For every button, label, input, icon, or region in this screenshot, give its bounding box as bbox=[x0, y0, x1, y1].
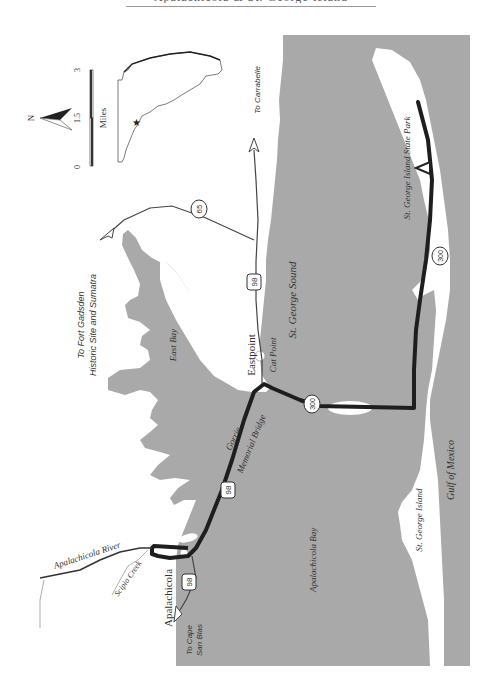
label-fort-gadsden-2: Historic Site and Sumatra bbox=[88, 274, 98, 376]
shield-us98-a-label: 98 bbox=[250, 277, 259, 286]
scale-tick-0: 0 bbox=[73, 165, 82, 169]
shield-us98-b-label: 98 bbox=[224, 485, 233, 494]
locator-star-icon: ★ bbox=[132, 117, 141, 128]
label-gulf-of-mexico: Gulf of Mexico bbox=[445, 440, 456, 500]
label-st-george-sound: St. George Sound bbox=[286, 261, 298, 338]
shield-us98-a: 98 bbox=[247, 274, 261, 290]
shield-us98-c-label: 98 bbox=[185, 577, 194, 586]
shield-sr300-a-label: 300 bbox=[309, 398, 316, 410]
fort-gadsden-arrow-icon bbox=[100, 228, 114, 240]
shield-sr300-b: 300 bbox=[432, 247, 448, 265]
label-cat-point: Cat Point bbox=[268, 337, 278, 372]
label-carrabelle: To Carrabelle bbox=[253, 66, 262, 114]
shield-sr300-b-label: 300 bbox=[437, 250, 444, 262]
scale-bar bbox=[90, 70, 93, 166]
map: 65 98 98 98 300 300 To Fort Gadsden Hist… bbox=[0, 0, 495, 693]
legend-north-label: N bbox=[26, 114, 36, 121]
shield-us98-b: 98 bbox=[221, 482, 235, 498]
label-eastpoint: Eastpoint bbox=[245, 334, 257, 376]
label-fort-gadsden-1: To Fort Gadsden bbox=[76, 291, 86, 358]
label-scipio-creek: Scipio Creek bbox=[113, 559, 144, 598]
shield-us98-c: 98 bbox=[182, 574, 196, 590]
shield-sr300-a: 300 bbox=[304, 395, 320, 413]
river-tributary bbox=[40, 580, 44, 628]
locator-map-coast-bold bbox=[124, 52, 220, 72]
label-apalachicola-bay: Apalachicola Bay bbox=[308, 528, 318, 593]
scale-unit: Miles bbox=[98, 107, 108, 128]
label-cape-san-blas-1: To Cape bbox=[185, 624, 194, 655]
label-cape-san-blas-2: San Blas bbox=[195, 624, 204, 656]
label-apalachicola: Apalachicola bbox=[162, 569, 174, 627]
scale-tick-3: 3 bbox=[73, 68, 82, 72]
locator-map bbox=[118, 52, 222, 162]
label-st-george-island: St. George Island bbox=[414, 488, 424, 551]
scale-tick-1-5: 1.5 bbox=[73, 113, 82, 123]
shield-sr65-label: 65 bbox=[195, 204, 204, 213]
shield-sr65: 65 bbox=[191, 200, 207, 218]
label-state-park: St. George Island State Park bbox=[402, 116, 412, 220]
north-arrow-icon bbox=[40, 108, 72, 130]
label-east-bay: East Bay bbox=[168, 329, 178, 362]
